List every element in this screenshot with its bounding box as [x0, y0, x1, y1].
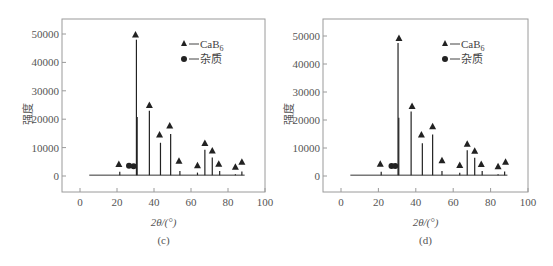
- legend-subscript: 6: [481, 44, 485, 53]
- cab6-triangle-marker: [215, 160, 222, 167]
- impurity-circle-marker: [392, 163, 398, 169]
- cab6-triangle-marker: [209, 147, 216, 154]
- legend-label-impurity: 杂质: [461, 53, 483, 65]
- y-tick-label: 20000: [293, 114, 321, 126]
- legend-label-cab6: CaB6: [200, 38, 224, 53]
- legend-circle-icon: [181, 56, 187, 62]
- impurity-circle-marker: [131, 163, 137, 169]
- y-tick-label: 20000: [32, 113, 60, 125]
- cab6-triangle-marker: [115, 161, 122, 168]
- panel-caption: (c): [157, 234, 170, 247]
- legend-label-cab6: CaB6: [461, 38, 485, 53]
- cab6-triangle-marker: [429, 123, 436, 130]
- y-tick-label: 0: [315, 170, 321, 182]
- y-tick-label: 50000: [32, 28, 60, 40]
- x-tick-label: 60: [448, 196, 460, 208]
- y-tick-label: 10000: [32, 142, 60, 154]
- x-tick-label: 60: [186, 196, 198, 208]
- cab6-triangle-marker: [132, 31, 139, 38]
- cab6-triangle-marker: [238, 158, 245, 165]
- y-axis-label: 强度: [21, 103, 35, 125]
- cab6-triangle-marker: [166, 122, 173, 129]
- cab6-triangle-marker: [438, 157, 445, 164]
- x-tick-label: 100: [257, 196, 274, 208]
- cab6-triangle-marker: [377, 160, 384, 167]
- legend-circle-icon: [442, 56, 448, 62]
- x-tick-label: 20: [112, 196, 124, 208]
- y-tick-label: 10000: [293, 142, 321, 154]
- x-axis-label: 2θ/(°): [413, 216, 439, 229]
- cab6-triangle-marker: [175, 157, 182, 164]
- cab6-triangle-marker: [418, 131, 425, 138]
- chart-panel-d: 010000200003000040000500000204060801002θ…: [282, 19, 537, 247]
- cab6-triangle-marker: [194, 162, 201, 169]
- cab6-triangle-marker: [156, 131, 163, 138]
- x-tick-label: 80: [223, 196, 235, 208]
- legend-subscript: 6: [220, 44, 224, 53]
- cab6-triangle-marker: [201, 140, 208, 147]
- x-tick-label: 40: [149, 196, 161, 208]
- chart-panel-c: 010000200003000040000500000204060801002θ…: [21, 19, 274, 247]
- cab6-triangle-marker: [502, 158, 509, 165]
- x-tick-label: 0: [77, 196, 83, 208]
- cab6-triangle-marker: [478, 160, 485, 167]
- y-tick-label: 40000: [293, 58, 321, 70]
- y-tick-label: 30000: [32, 85, 60, 97]
- x-tick-label: 0: [338, 196, 344, 208]
- x-tick-label: 80: [485, 196, 497, 208]
- cab6-triangle-marker: [146, 102, 153, 109]
- cab6-triangle-marker: [495, 163, 502, 170]
- cab6-triangle-marker: [395, 34, 402, 41]
- y-axis-label: 强度: [282, 103, 296, 125]
- y-tick-label: 0: [54, 170, 60, 182]
- cab6-triangle-marker: [409, 103, 416, 110]
- x-axis-label: 2θ/(°): [151, 216, 177, 229]
- legend-label-impurity: 杂质: [200, 53, 222, 65]
- y-tick-label: 40000: [32, 56, 60, 68]
- x-tick-label: 100: [520, 196, 537, 208]
- legend-triangle-icon: [442, 40, 448, 46]
- y-tick-label: 30000: [293, 86, 321, 98]
- y-tick-label: 50000: [293, 30, 321, 42]
- cab6-triangle-marker: [232, 163, 239, 170]
- panel-caption: (d): [419, 234, 432, 247]
- x-tick-label: 40: [410, 196, 422, 208]
- cab6-triangle-marker: [464, 140, 471, 147]
- xrd-figure: 010000200003000040000500000204060801002θ…: [0, 0, 553, 266]
- cab6-triangle-marker: [456, 162, 463, 169]
- cab6-triangle-marker: [471, 147, 478, 154]
- x-tick-label: 20: [373, 196, 385, 208]
- legend-triangle-icon: [181, 40, 187, 46]
